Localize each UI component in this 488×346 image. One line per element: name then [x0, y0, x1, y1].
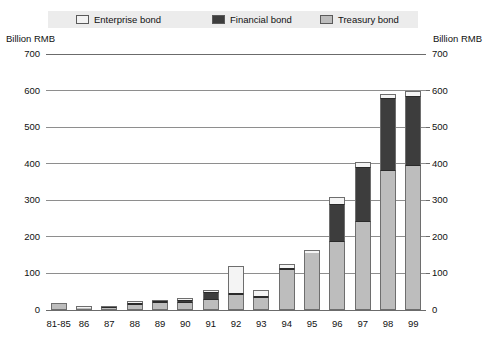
- y-tick-left-600: 600: [24, 86, 40, 96]
- bar-segment-treasury-98: [380, 171, 396, 310]
- y-tick-left-400: 400: [24, 159, 40, 169]
- y-tick-left-100: 100: [24, 268, 40, 278]
- bar-93[interactable]: [253, 290, 269, 310]
- y-tick-mark-400: [426, 163, 430, 164]
- bar-segment-treasury-90: [177, 303, 193, 310]
- bar-segment-financial-96: [329, 204, 345, 243]
- x-tick-96: 96: [325, 318, 350, 329]
- y-tick-right-0: 0: [432, 305, 437, 315]
- bar-segment-treasury-87: [101, 308, 117, 310]
- bar-92[interactable]: [228, 266, 244, 310]
- x-tick-87: 87: [97, 318, 122, 329]
- legend-swatch-treasury-icon: [320, 15, 333, 24]
- y-tick-right-400: 400: [432, 159, 448, 169]
- bar-81-85[interactable]: [51, 303, 67, 310]
- plot-area: 0100200300400500600700 01002003004005006…: [46, 54, 426, 310]
- y-tick-right-600: 600: [432, 86, 448, 96]
- bar-96[interactable]: [329, 197, 345, 310]
- y-tick-right-100: 100: [432, 268, 448, 278]
- y-tick-mark-200: [426, 236, 430, 237]
- y-tick-mark-100: [426, 273, 430, 274]
- bar-89[interactable]: [152, 300, 168, 310]
- bar-99[interactable]: [405, 91, 421, 310]
- x-tick-97: 97: [350, 318, 375, 329]
- y-tick-left-0: 0: [35, 305, 40, 315]
- bar-86[interactable]: [76, 306, 92, 310]
- bar-segment-enterprise-96: [329, 197, 345, 204]
- x-tick-81-85: 81-85: [46, 318, 71, 329]
- bar-87[interactable]: [101, 306, 117, 310]
- x-tick-94: 94: [274, 318, 299, 329]
- y-tick-right-500: 500: [432, 122, 448, 132]
- bar-segment-financial-91: [203, 292, 219, 300]
- y-tick-mark-500: [426, 127, 430, 128]
- x-tick-95: 95: [299, 318, 324, 329]
- y-tick-right-300: 300: [432, 195, 448, 205]
- legend-item-enterprise: Enterprise bond: [76, 12, 161, 27]
- legend-item-financial: Financial bond: [212, 12, 292, 27]
- y-tick-right-200: 200: [432, 232, 448, 242]
- bar-segment-treasury-81-85: [51, 303, 67, 310]
- y-axis-unit-left: Billion RMB: [6, 33, 55, 44]
- bar-88[interactable]: [127, 301, 143, 310]
- bar-segment-treasury-95: [304, 253, 320, 310]
- legend-label-enterprise: Enterprise bond: [94, 14, 161, 25]
- bar-94[interactable]: [279, 264, 295, 310]
- bar-segment-treasury-99: [405, 166, 421, 310]
- y-tick-mark-600: [426, 90, 430, 91]
- y-tick-left-200: 200: [24, 232, 40, 242]
- bar-segment-treasury-94: [279, 270, 295, 310]
- bar-91[interactable]: [203, 290, 219, 310]
- bar-97[interactable]: [355, 162, 371, 310]
- y-tick-left-500: 500: [24, 122, 40, 132]
- x-tick-91: 91: [198, 318, 223, 329]
- chart-canvas: Enterprise bond Financial bond Treasury …: [0, 0, 488, 346]
- legend-swatch-enterprise-icon: [76, 15, 89, 24]
- x-tick-86: 86: [71, 318, 96, 329]
- bar-segment-treasury-93: [253, 298, 269, 310]
- bar-segment-treasury-96: [329, 242, 345, 310]
- y-tick-left-700: 700: [24, 49, 40, 59]
- bar-segment-financial-98: [380, 98, 396, 171]
- bar-segment-treasury-92: [228, 295, 244, 310]
- x-tick-98: 98: [375, 318, 400, 329]
- chart-legend: Enterprise bond Financial bond Treasury …: [48, 11, 418, 28]
- bar-segment-treasury-88: [127, 305, 143, 310]
- x-tick-99: 99: [401, 318, 426, 329]
- bar-segment-financial-97: [355, 167, 371, 223]
- bar-segment-treasury-89: [152, 303, 168, 310]
- bar-segment-treasury-97: [355, 222, 371, 310]
- x-tick-92: 92: [223, 318, 248, 329]
- y-axis-unit-right: Billion RMB: [433, 33, 482, 44]
- bar-segment-enterprise-92: [228, 266, 244, 293]
- bar-95[interactable]: [304, 250, 320, 310]
- legend-label-financial: Financial bond: [230, 14, 292, 25]
- bar-series-container: [46, 54, 426, 310]
- x-tick-89: 89: [147, 318, 172, 329]
- y-tick-left-300: 300: [24, 195, 40, 205]
- bar-segment-treasury-91: [203, 300, 219, 310]
- bar-90[interactable]: [177, 298, 193, 310]
- x-tick-88: 88: [122, 318, 147, 329]
- x-tick-90: 90: [173, 318, 198, 329]
- legend-item-treasury: Treasury bond: [320, 12, 399, 27]
- y-tick-right-700: 700: [432, 49, 448, 59]
- bar-segment-treasury-86: [76, 308, 92, 310]
- legend-swatch-financial-icon: [212, 15, 225, 24]
- bar-segment-financial-99: [405, 96, 421, 165]
- x-tick-93: 93: [249, 318, 274, 329]
- y-tick-mark-300: [426, 200, 430, 201]
- bar-98[interactable]: [380, 94, 396, 310]
- legend-label-treasury: Treasury bond: [338, 14, 399, 25]
